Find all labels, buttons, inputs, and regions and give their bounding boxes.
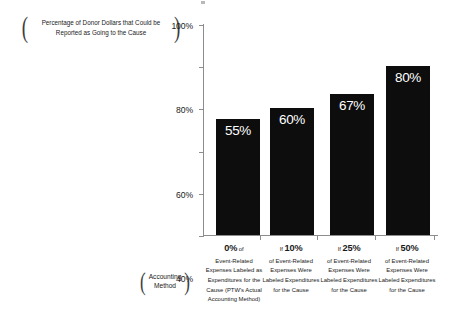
x-tick-mark <box>317 235 318 240</box>
y-tick-label: 100% <box>171 21 193 31</box>
y-tick-label: 60% <box>176 190 193 200</box>
y-tick-label: 80% <box>176 105 193 115</box>
x-axis-line <box>203 235 438 236</box>
category-headline: If 10% <box>262 241 320 256</box>
x-caption-open-paren: ( <box>137 268 149 294</box>
x-tick-mark <box>260 235 261 240</box>
plot-area: 0%20%40%60%80%100% 55%60%67%80% <box>203 24 438 236</box>
x-axis-category-label: If 50%of Event-Related Expenses Were Lab… <box>377 241 437 295</box>
y-tick-mark: 0% <box>199 236 204 237</box>
y-caption-open-paren: ( <box>19 13 31 42</box>
category-percent: 50% <box>401 243 419 253</box>
category-percent: 25% <box>343 243 361 253</box>
y-axis-caption: ( Percentage of Donor Dollars that Could… <box>12 18 190 37</box>
category-description: of Event-Related Expenses Were Labeled E… <box>377 257 437 295</box>
x-tick-mark <box>434 235 435 240</box>
category-description: of Event-Related Expenses Were Labeled E… <box>320 257 378 295</box>
bar-value-label: 67% <box>330 98 374 113</box>
y-tick-mark: 40% <box>199 152 204 153</box>
y-tick-mark: 20% <box>199 194 204 195</box>
category-percent: 10% <box>285 243 303 253</box>
bar: 60% <box>270 108 314 235</box>
y-tick-mark: 100% <box>199 25 204 26</box>
category-description: of Event-Related Expenses Were Labeled E… <box>262 257 320 295</box>
bar: 55% <box>216 119 260 235</box>
bar: 80% <box>386 66 430 235</box>
x-axis-caption-text: Accounting Method <box>149 272 182 290</box>
category-percent: 0% <box>224 243 237 253</box>
bar-value-label: 55% <box>216 123 260 138</box>
y-axis-caption-text: Percentage of Donor Dollars that Could b… <box>31 18 171 36</box>
y-tick-mark: 60% <box>199 109 204 110</box>
y-tick-mark: 80% <box>199 67 204 68</box>
bar-value-label: 60% <box>270 112 314 127</box>
x-tick-mark <box>375 235 376 240</box>
bar: 67% <box>330 94 374 235</box>
x-caption-line2: Method <box>154 282 176 289</box>
category-suffix: of <box>237 246 244 252</box>
bar-value-label: 80% <box>386 70 430 85</box>
category-description: Event-Related Expenses Labeled as Expend… <box>205 257 263 305</box>
x-axis-caption: ( Accounting Method ) <box>128 272 202 290</box>
y-axis-line <box>203 24 204 236</box>
page-artifact <box>201 1 205 4</box>
bar-chart: ( Percentage of Donor Dollars that Could… <box>0 0 452 330</box>
category-headline: If 25% <box>320 241 378 256</box>
x-caption-line1: Accounting <box>149 273 182 280</box>
x-axis-category-label: If 10%of Event-Related Expenses Were Lab… <box>262 241 320 295</box>
category-headline: If 50% <box>377 241 437 256</box>
x-axis-category-label: If 25%of Event-Related Expenses Were Lab… <box>320 241 378 295</box>
x-caption-close-paren: ) <box>181 268 193 294</box>
x-axis-category-label: 0% ofEvent-Related Expenses Labeled as E… <box>205 241 263 305</box>
category-headline: 0% of <box>205 241 263 256</box>
